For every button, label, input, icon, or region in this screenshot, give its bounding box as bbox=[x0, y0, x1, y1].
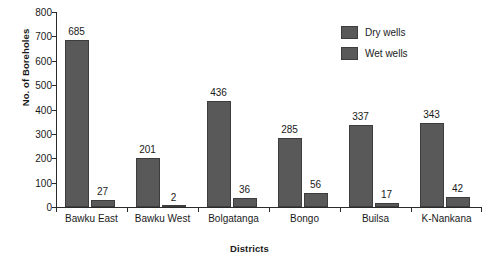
x-axis-tick bbox=[481, 208, 482, 212]
y-axis-tick bbox=[52, 61, 56, 62]
y-axis-tick-label: 0 bbox=[22, 202, 52, 213]
y-axis-tick bbox=[52, 12, 56, 13]
x-axis-tick bbox=[198, 208, 199, 212]
legend-swatch-icon bbox=[341, 26, 358, 39]
chart-legend: Dry wellsWet wells bbox=[341, 22, 408, 64]
y-axis-tick bbox=[52, 134, 56, 135]
bar-value-label: 2 bbox=[171, 192, 177, 203]
bar bbox=[65, 40, 89, 207]
bar-value-label: 685 bbox=[68, 26, 85, 37]
y-axis-tick bbox=[52, 158, 56, 159]
bar-value-label: 337 bbox=[352, 111, 369, 122]
bar-chart: No. of Boreholes 01002003004005006007008… bbox=[0, 0, 499, 271]
x-axis-category-label: Bawku West bbox=[135, 213, 190, 224]
bar bbox=[233, 198, 257, 207]
bar bbox=[162, 205, 186, 207]
y-axis-tick-label: 600 bbox=[22, 55, 52, 66]
x-axis-tick bbox=[269, 208, 270, 212]
bar-value-label: 42 bbox=[452, 183, 463, 194]
y-axis-tick-label: 400 bbox=[22, 104, 52, 115]
x-axis-tick bbox=[127, 208, 128, 212]
bar-value-label: 17 bbox=[381, 189, 392, 200]
y-axis-tick-label: 700 bbox=[22, 31, 52, 42]
x-axis-category-label: Bolgatanga bbox=[208, 213, 259, 224]
bar-value-label: 343 bbox=[423, 109, 440, 120]
y-axis-tick-label: 500 bbox=[22, 80, 52, 91]
y-axis-tick bbox=[52, 183, 56, 184]
y-axis-tick-label: 100 bbox=[22, 177, 52, 188]
x-axis-tick bbox=[411, 208, 412, 212]
legend-label: Dry wells bbox=[365, 27, 406, 38]
x-axis-title: Districts bbox=[0, 243, 499, 254]
bar-value-label: 27 bbox=[97, 186, 108, 197]
y-axis-tick-label: 200 bbox=[22, 153, 52, 164]
bar bbox=[278, 138, 302, 207]
x-axis-category-label: Bongo bbox=[290, 213, 319, 224]
bar-value-label: 36 bbox=[239, 184, 250, 195]
bar bbox=[446, 197, 470, 207]
x-axis-category-label: K-Nankana bbox=[421, 213, 471, 224]
y-axis-tick bbox=[52, 36, 56, 37]
y-axis-tick-labels: 0100200300400500600700800 bbox=[22, 0, 52, 271]
bar-value-label: 56 bbox=[310, 179, 321, 190]
bar-value-label: 201 bbox=[139, 144, 156, 155]
bar-value-label: 285 bbox=[281, 124, 298, 135]
x-axis-tick bbox=[340, 208, 341, 212]
y-axis-line bbox=[56, 12, 57, 209]
y-axis-tick bbox=[52, 110, 56, 111]
bar bbox=[349, 125, 373, 207]
x-axis-category-label: Builsa bbox=[362, 213, 389, 224]
legend-item: Wet wells bbox=[341, 43, 408, 64]
bar bbox=[375, 203, 399, 207]
legend-item: Dry wells bbox=[341, 22, 408, 43]
y-axis-tick-label: 800 bbox=[22, 7, 52, 18]
x-axis-tick bbox=[56, 208, 57, 212]
bar bbox=[207, 101, 231, 207]
plot-area bbox=[56, 12, 482, 208]
y-axis-tick bbox=[52, 85, 56, 86]
bar bbox=[91, 200, 115, 207]
bar bbox=[304, 193, 328, 207]
y-axis-tick-label: 300 bbox=[22, 128, 52, 139]
bar bbox=[136, 158, 160, 207]
bar-value-label: 436 bbox=[210, 87, 227, 98]
legend-swatch-icon bbox=[341, 47, 358, 60]
x-axis-category-label: Bawku East bbox=[65, 213, 118, 224]
bar bbox=[420, 123, 444, 207]
legend-label: Wet wells bbox=[365, 48, 408, 59]
